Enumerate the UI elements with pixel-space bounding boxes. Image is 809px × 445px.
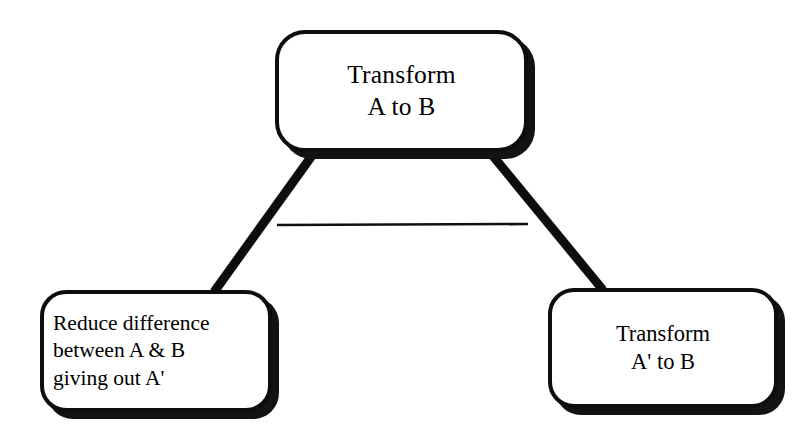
edge-root-to-transform2 (488, 150, 603, 290)
node-transform-aprime-to-b-label: Transform A' to B (552, 320, 774, 377)
node-transform-a-to-b-label: Transform A to B (279, 59, 524, 123)
node-reduce-difference-label: Reduce difference between A & B giving o… (44, 310, 268, 393)
node-reduce-difference[interactable]: Reduce difference between A & B giving o… (40, 290, 272, 412)
diagram-canvas: Transform A to B Reduce difference betwe… (0, 0, 809, 445)
edge-crossbar (277, 224, 528, 225)
node-transform-aprime-to-b[interactable]: Transform A' to B (548, 288, 778, 408)
node-transform-a-to-b[interactable]: Transform A to B (275, 30, 528, 152)
edge-root-to-reduce (214, 150, 316, 292)
